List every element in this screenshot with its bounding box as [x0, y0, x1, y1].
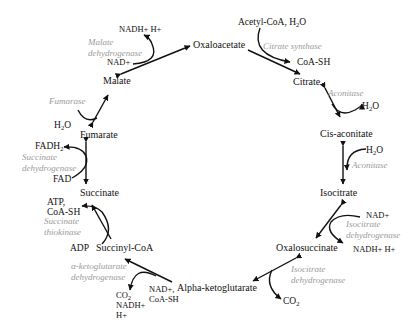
cofactor-h2o-aconitase-out: H2O — [362, 101, 379, 111]
cofactor-h2o-aconitase-in: H2O — [366, 145, 383, 155]
cofactor-coa-sh: CoA-SH — [297, 57, 330, 67]
enzyme-succinate-thiokinase: Succinate thiokinase — [44, 216, 81, 238]
metabolite-citrate: Citrate — [293, 77, 320, 87]
enzyme-aconitase-1: Aconitase — [328, 88, 364, 99]
arrow-akg-succinylcoa — [125, 259, 172, 282]
cofactor-nadh-isocitrate: NADH+ H+ — [353, 244, 395, 254]
enzyme-line: Succinate — [22, 152, 76, 163]
cofactor-co2-nadh-akg: CO2 NADH+ H+ — [116, 290, 145, 320]
enzyme-isocitrate-dehydrogenase-1: Isocitrate dehydrogenase — [346, 219, 400, 241]
metabolite-malate: Malate — [103, 76, 131, 86]
citric-acid-cycle-diagram: Oxaloacetate Citrate Cis-aconitate Isoci… — [0, 0, 418, 332]
cofactor-nad-coash-akg: NAD+, CoA-SH — [149, 284, 179, 304]
enzyme-succinate-dehydrogenase: Succinate dehydrogenase — [22, 152, 76, 174]
arrow-isocitrate-oxalosuccinate — [316, 205, 341, 238]
enzyme-line: thiokinase — [44, 227, 81, 238]
cofactor-fadh2: FADH2 — [35, 141, 63, 151]
enzyme-line: dehydrogenase — [22, 163, 76, 174]
arrow-oxaloacetate-citrate — [248, 50, 300, 74]
metabolite-oxaloacetate: Oxaloacetate — [193, 40, 245, 50]
enzyme-line: dehydrogenase — [291, 275, 345, 286]
enzyme-citrate-synthase: Citrate synthase — [263, 41, 322, 52]
arrow-co2-oxalosuccinate — [269, 270, 281, 299]
cofactor-line: CoA-SH — [149, 294, 179, 304]
cofactor-nad-malate: NAD+ — [107, 57, 130, 67]
metabolite-succinate: Succinate — [80, 188, 119, 198]
cofactor-line: ATP, — [47, 197, 80, 207]
enzyme-line: dehydrogenase — [346, 230, 400, 241]
cofactor-h2o-fumarase: H2O — [54, 120, 71, 130]
cofactor-fad: FAD — [53, 174, 71, 184]
enzyme-alpha-ketoglutarate-dehydrogenase: α-ketoglutarate dehydrogenase — [71, 261, 127, 283]
enzyme-isocitrate-dehydrogenase-2: Isocitrate dehydrogenase — [291, 264, 345, 286]
cofactor-line: NAD+, — [149, 284, 179, 294]
arrow-oxalosuccinate-akg — [253, 258, 296, 281]
enzyme-aconitase-2: Aconitase — [352, 160, 388, 171]
metabolite-oxalosuccinate: Oxalosuccinate — [276, 243, 338, 253]
enzyme-line: Succinate — [44, 216, 81, 227]
metabolite-isocitrate: Isocitrate — [320, 188, 357, 198]
metabolite-cis-aconitate: Cis-aconitate — [320, 129, 373, 139]
cofactor-atp-coash: ATP, CoA-SH — [47, 197, 80, 217]
arrow-fumarate-malate — [93, 95, 108, 122]
cofactor-nad-isocitrate: NAD+ — [366, 210, 389, 220]
cofactor-line: CoA-SH — [47, 207, 80, 217]
enzyme-line: α-ketoglutarate — [71, 261, 127, 272]
cofactor-nadh-malate: NADH+ H+ — [119, 24, 161, 34]
metabolite-fumarate: Fumarate — [80, 130, 118, 140]
cofactor-co2-oxalosuccinate: CO2 — [283, 296, 299, 306]
metabolite-alpha-ketoglutarate: Alpha-ketoglutarate — [177, 283, 257, 293]
enzyme-line: Isocitrate — [291, 264, 345, 275]
enzyme-line: Isocitrate — [346, 219, 400, 230]
arrow-fumarase-h2o — [78, 110, 97, 120]
metabolite-succinyl-coa: Succinyl-CoA — [96, 243, 153, 253]
cofactor-acetyl-coa-h2o: Acetyl-CoA, H2O — [238, 17, 306, 27]
cofactor-adp: ADP — [70, 243, 89, 253]
enzyme-line: dehydrogenase — [71, 272, 127, 283]
enzyme-fumarase: Fumarase — [49, 96, 86, 107]
enzyme-malate-dehydrogenase: Malate dehydrogenase — [88, 37, 142, 59]
enzyme-line: Malate — [88, 37, 142, 48]
